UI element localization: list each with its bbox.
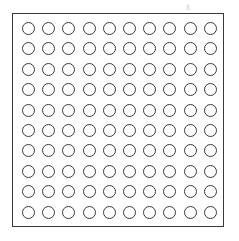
circle [143, 42, 156, 55]
circle [184, 42, 197, 55]
circle [83, 83, 96, 96]
circle [103, 185, 116, 198]
circle [83, 63, 96, 76]
circle [103, 206, 116, 219]
circle [204, 206, 217, 219]
circle [163, 144, 176, 157]
circle [22, 22, 35, 35]
circle [163, 42, 176, 55]
circle [204, 22, 217, 35]
circle [163, 22, 176, 35]
circle [42, 42, 55, 55]
circle [83, 206, 96, 219]
circle [22, 144, 35, 157]
circle [62, 104, 75, 117]
circle-grid [22, 22, 224, 226]
circle [62, 165, 75, 178]
circle [42, 22, 55, 35]
circle [204, 124, 217, 137]
circle [184, 22, 197, 35]
circle [123, 185, 136, 198]
circle [103, 104, 116, 117]
circle [184, 185, 197, 198]
circle [184, 124, 197, 137]
circle [163, 165, 176, 178]
circle [62, 63, 75, 76]
circle [22, 42, 35, 55]
circle [42, 124, 55, 137]
circle [83, 124, 96, 137]
circle [62, 185, 75, 198]
circle [163, 104, 176, 117]
circle [123, 42, 136, 55]
circle [184, 63, 197, 76]
circle [204, 165, 217, 178]
circle [83, 165, 96, 178]
circle [123, 206, 136, 219]
circle [143, 206, 156, 219]
circle [22, 63, 35, 76]
circle [83, 104, 96, 117]
circle [103, 63, 116, 76]
circle [62, 22, 75, 35]
circle [204, 185, 217, 198]
circle [22, 124, 35, 137]
circle [83, 22, 96, 35]
circle [204, 83, 217, 96]
circle [143, 63, 156, 76]
circle [123, 22, 136, 35]
circle [123, 104, 136, 117]
circle [204, 104, 217, 117]
circle [204, 144, 217, 157]
circle [184, 165, 197, 178]
circle [62, 206, 75, 219]
circle [143, 165, 156, 178]
circle [123, 63, 136, 76]
circle [143, 22, 156, 35]
circle [103, 124, 116, 137]
circle [123, 124, 136, 137]
circle [22, 165, 35, 178]
circle [42, 63, 55, 76]
circle [143, 104, 156, 117]
circle [22, 206, 35, 219]
circle [184, 104, 197, 117]
circle [184, 144, 197, 157]
circle [163, 185, 176, 198]
circle [143, 144, 156, 157]
circle [123, 165, 136, 178]
circle [22, 83, 35, 96]
circle [123, 83, 136, 96]
circle [42, 165, 55, 178]
circle [123, 144, 136, 157]
circle [22, 185, 35, 198]
circle [62, 83, 75, 96]
circle [42, 185, 55, 198]
circle [103, 22, 116, 35]
circle [42, 206, 55, 219]
circle [62, 42, 75, 55]
circle [22, 104, 35, 117]
circle [83, 42, 96, 55]
circle [62, 144, 75, 157]
circle [163, 63, 176, 76]
circle [42, 104, 55, 117]
circle [62, 124, 75, 137]
circle [143, 124, 156, 137]
circle [103, 83, 116, 96]
circle [163, 124, 176, 137]
circle [103, 144, 116, 157]
circle [103, 165, 116, 178]
circle [143, 83, 156, 96]
circle [83, 144, 96, 157]
faint-mark: ß [186, 4, 190, 12]
circle [143, 185, 156, 198]
circle [42, 144, 55, 157]
circle [83, 185, 96, 198]
circle [204, 42, 217, 55]
circle [163, 83, 176, 96]
circle [184, 83, 197, 96]
circle [163, 206, 176, 219]
circle [184, 206, 197, 219]
circle [42, 83, 55, 96]
